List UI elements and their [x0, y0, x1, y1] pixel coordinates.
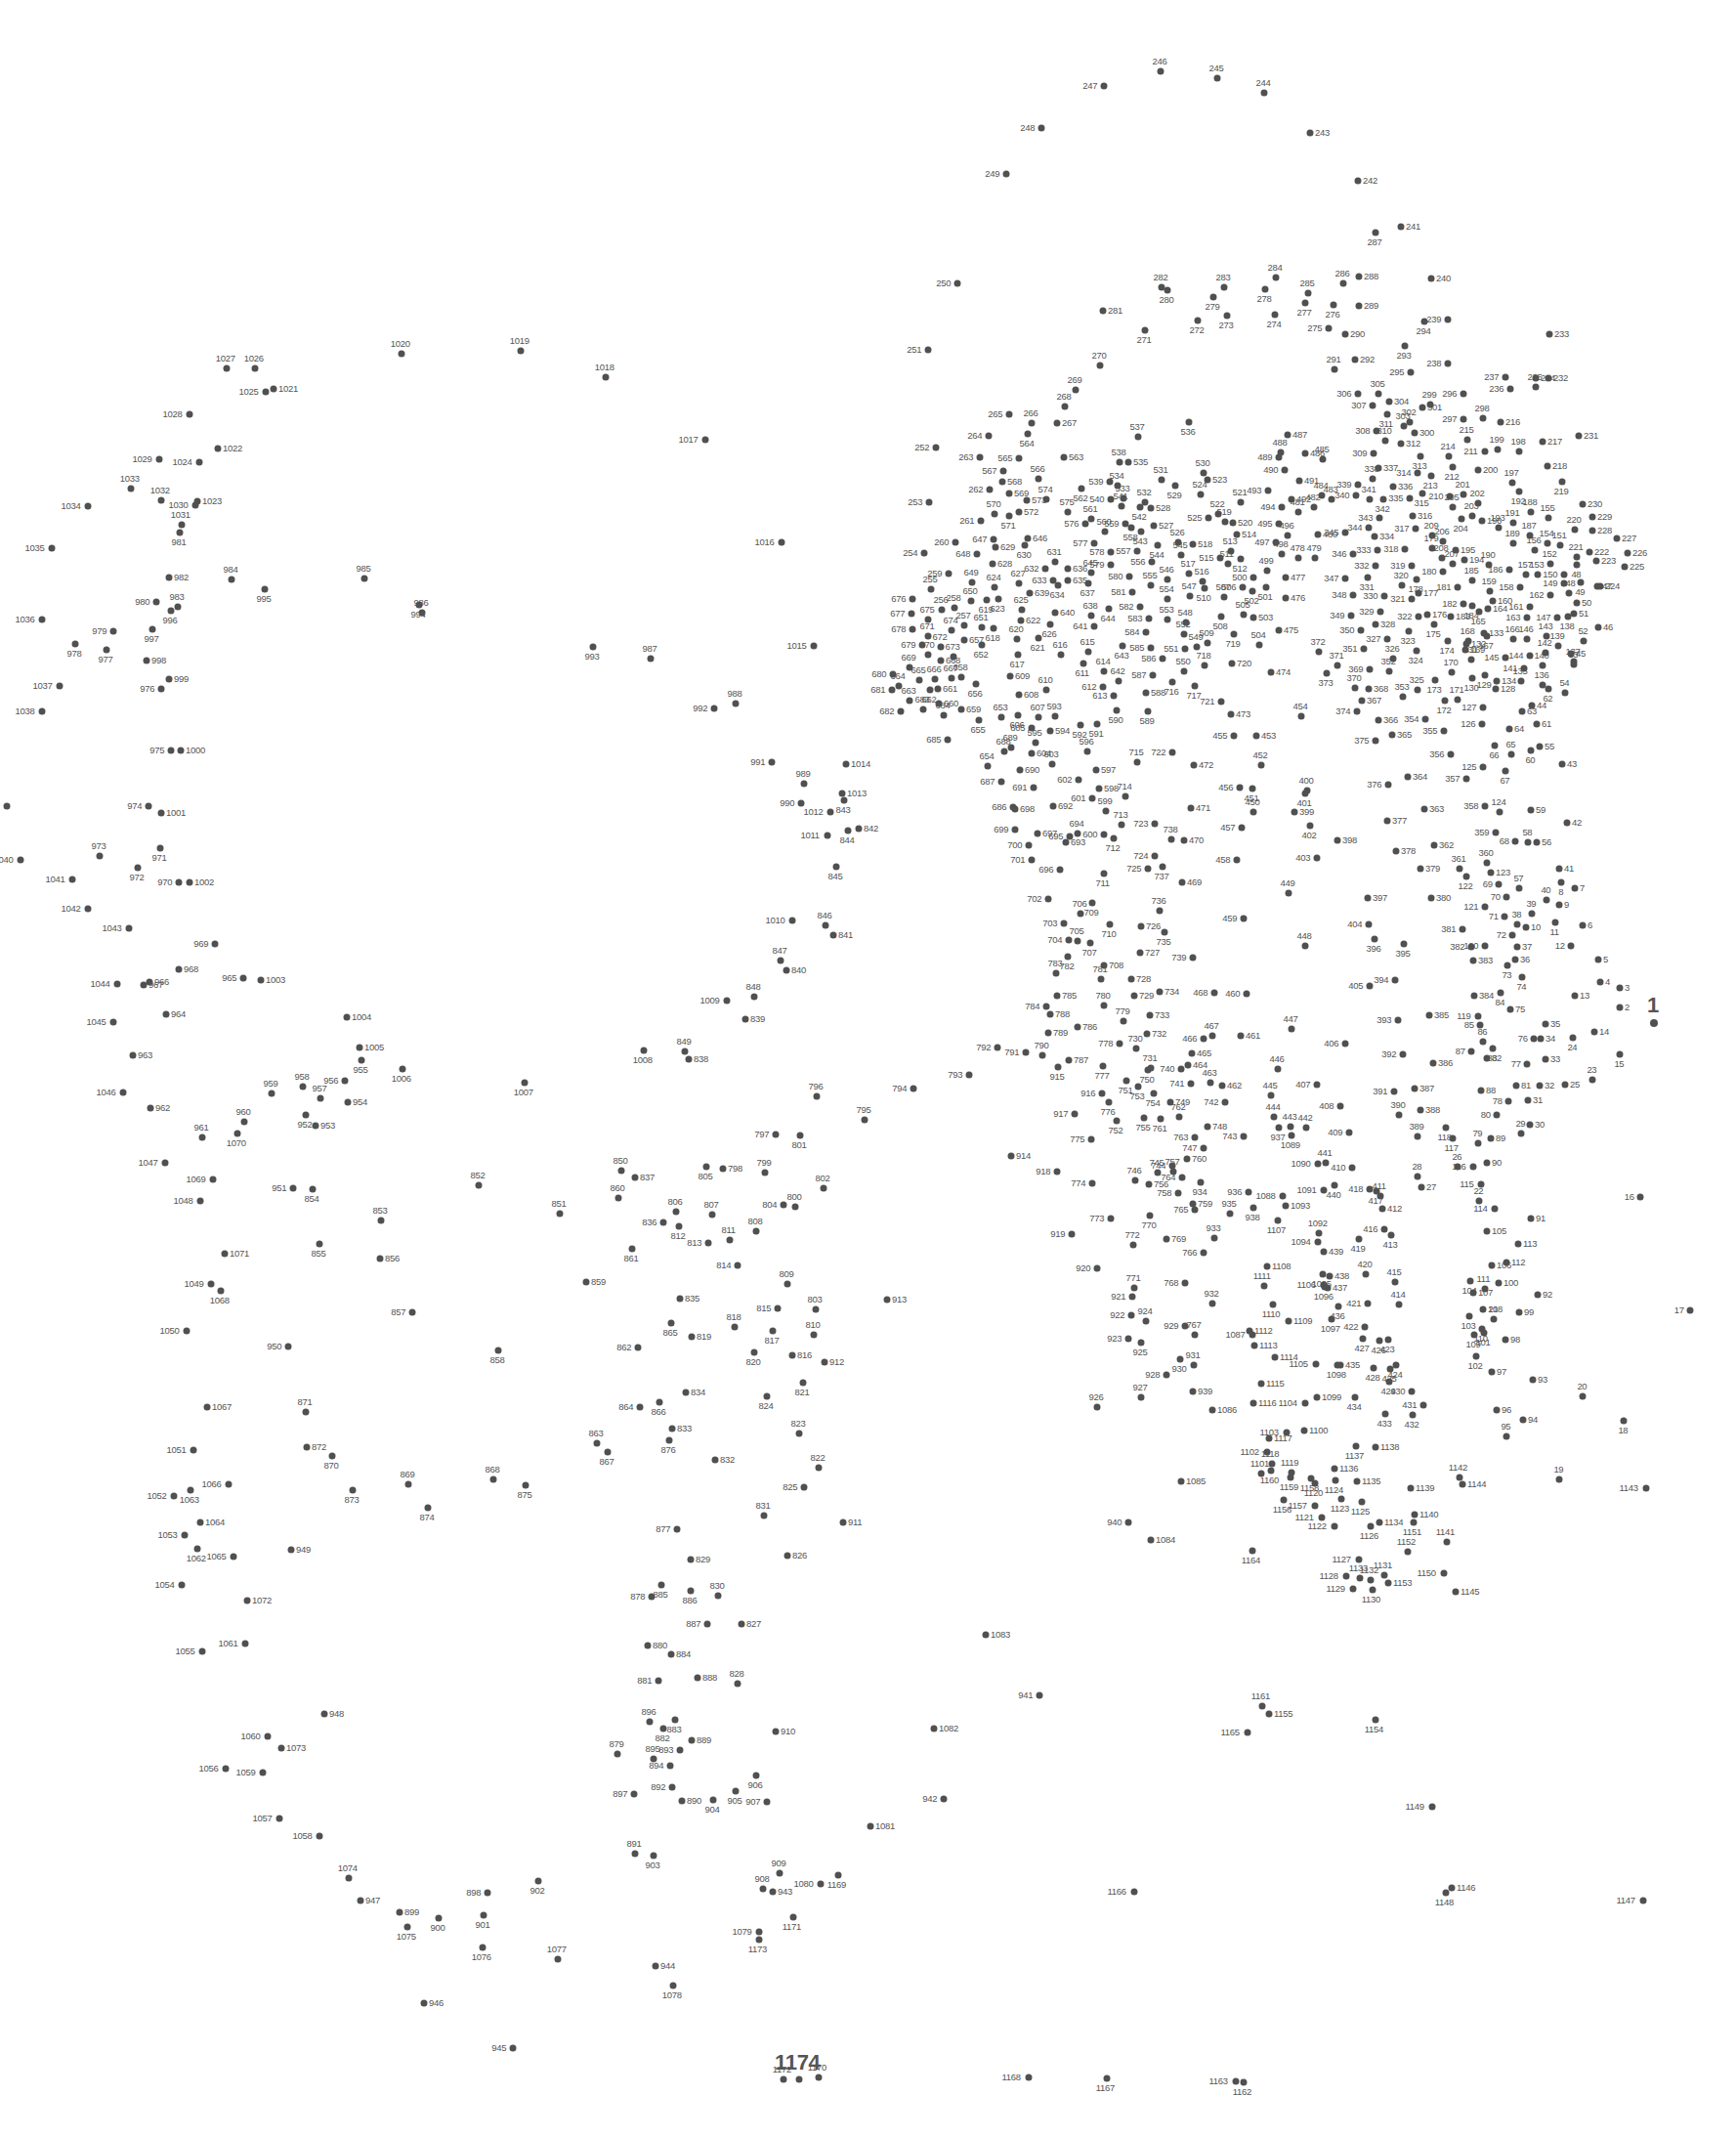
point-dot-280[interactable]	[1164, 287, 1171, 294]
point-dot-674[interactable]	[949, 627, 955, 634]
point-dot-1048[interactable]	[197, 1198, 204, 1205]
point-dot-1068[interactable]	[218, 1288, 225, 1295]
point-dot-289[interactable]	[1356, 303, 1363, 310]
point-dot-678[interactable]	[910, 626, 916, 633]
point-dot-605[interactable]	[1029, 725, 1036, 732]
point-dot-87[interactable]	[1468, 1048, 1475, 1055]
point-dot-976[interactable]	[158, 686, 165, 693]
point-dot-405[interactable]	[1367, 983, 1374, 990]
point-dot-51[interactable]	[1571, 611, 1578, 618]
point-dot-196[interactable]	[1479, 518, 1486, 525]
point-dot-246[interactable]	[1158, 68, 1164, 75]
point-dot-820[interactable]	[751, 1349, 758, 1356]
point-dot-509[interactable]	[1205, 640, 1211, 647]
point-dot-11[interactable]	[1552, 919, 1559, 926]
point-dot-1021[interactable]	[271, 386, 277, 393]
point-dot-362[interactable]	[1431, 842, 1438, 849]
point-dot-149[interactable]	[1561, 580, 1568, 587]
point-dot-49[interactable]	[1578, 579, 1585, 586]
point-dot-157[interactable]	[1523, 572, 1530, 578]
point-dot-268[interactable]	[1062, 404, 1069, 410]
point-dot-770[interactable]	[1147, 1213, 1154, 1219]
point-dot-520[interactable]	[1230, 520, 1237, 527]
point-dot-397[interactable]	[1365, 895, 1372, 902]
point-dot-932[interactable]	[1209, 1301, 1216, 1307]
point-dot-1027[interactable]	[224, 365, 231, 372]
point-dot-566[interactable]	[1036, 476, 1042, 483]
point-dot-282[interactable]	[1159, 284, 1165, 291]
point-dot-113[interactable]	[1515, 1241, 1522, 1248]
point-dot-62[interactable]	[1545, 686, 1552, 693]
point-dot-358[interactable]	[1482, 803, 1489, 810]
point-dot-905[interactable]	[733, 1788, 740, 1795]
point-dot-807[interactable]	[709, 1212, 716, 1219]
point-dot-200[interactable]	[1475, 467, 1482, 474]
point-dot-557[interactable]	[1134, 548, 1141, 555]
point-dot-69[interactable]	[1496, 881, 1503, 888]
point-dot-793[interactable]	[966, 1072, 973, 1079]
point-dot-1086[interactable]	[1209, 1407, 1216, 1414]
point-dot-88[interactable]	[1478, 1088, 1485, 1094]
point-dot-529[interactable]	[1172, 483, 1179, 490]
point-dot-984[interactable]	[229, 577, 235, 583]
point-dot-59[interactable]	[1528, 807, 1535, 814]
point-dot-428[interactable]	[1371, 1365, 1377, 1372]
point-dot-214[interactable]	[1446, 453, 1453, 460]
point-dot-869[interactable]	[405, 1481, 412, 1488]
point-dot-480[interactable]	[1315, 532, 1322, 538]
point-dot-36[interactable]	[1512, 957, 1519, 963]
point-dot-1082[interactable]	[931, 1726, 938, 1732]
point-dot-993[interactable]	[590, 644, 597, 651]
point-dot-293[interactable]	[1402, 343, 1409, 350]
point-dot-258[interactable]	[952, 605, 958, 612]
point-dot-783[interactable]	[1053, 970, 1060, 977]
point-dot-721[interactable]	[1218, 699, 1225, 706]
point-dot-528[interactable]	[1148, 505, 1155, 512]
point-dot-361[interactable]	[1457, 866, 1463, 873]
point-dot-137[interactable]	[1571, 659, 1578, 665]
point-dot-298[interactable]	[1480, 415, 1487, 422]
point-dot-142[interactable]	[1543, 650, 1549, 657]
point-dot-349[interactable]	[1348, 613, 1355, 620]
point-dot-867[interactable]	[605, 1449, 612, 1456]
point-dot-777[interactable]	[1100, 1063, 1107, 1070]
point-dot-279[interactable]	[1210, 294, 1217, 301]
point-dot-626[interactable]	[1047, 621, 1054, 628]
point-dot-1110[interactable]	[1270, 1302, 1277, 1308]
point-dot-718[interactable]	[1202, 663, 1208, 669]
point-dot-931[interactable]	[1191, 1362, 1198, 1369]
point-dot-597[interactable]	[1093, 767, 1100, 774]
point-dot-116[interactable]	[1470, 1164, 1477, 1171]
point-dot-965[interactable]	[240, 975, 247, 982]
point-dot-665[interactable]	[916, 677, 923, 684]
point-dot-687[interactable]	[998, 779, 1005, 786]
point-dot-1132[interactable]	[1368, 1577, 1375, 1584]
point-dot-86[interactable]	[1480, 1039, 1487, 1046]
point-dot-584[interactable]	[1143, 629, 1150, 636]
point-dot-29[interactable]	[1518, 1131, 1525, 1137]
point-dot-492[interactable]	[1289, 496, 1295, 503]
point-dot-376[interactable]	[1385, 782, 1392, 789]
point-dot-264[interactable]	[986, 433, 993, 440]
point-dot-1011[interactable]	[825, 833, 831, 839]
point-dot-20[interactable]	[1580, 1393, 1587, 1400]
point-dot-888[interactable]	[695, 1675, 701, 1682]
point-dot-1080[interactable]	[818, 1881, 825, 1888]
point-dot-502[interactable]	[1249, 588, 1256, 595]
point-dot-615[interactable]	[1085, 649, 1092, 656]
point-dot-797[interactable]	[773, 1132, 780, 1138]
point-dot-969[interactable]	[212, 941, 219, 948]
point-dot-171[interactable]	[1455, 697, 1461, 704]
point-dot-108[interactable]	[1480, 1306, 1487, 1313]
point-dot-854[interactable]	[310, 1186, 317, 1193]
point-dot-980[interactable]	[153, 599, 160, 606]
point-dot-398[interactable]	[1334, 837, 1341, 844]
point-dot-55[interactable]	[1537, 744, 1544, 750]
point-dot-1052[interactable]	[171, 1493, 178, 1500]
point-dot-544[interactable]	[1155, 542, 1162, 549]
point-dot-110[interactable]	[1479, 1326, 1486, 1333]
point-dot-359[interactable]	[1493, 830, 1500, 836]
point-dot-926[interactable]	[1094, 1404, 1101, 1411]
point-dot-558[interactable]	[1128, 525, 1135, 532]
point-dot-703[interactable]	[1061, 920, 1068, 927]
